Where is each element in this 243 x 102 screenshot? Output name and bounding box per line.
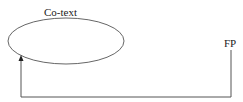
cotext-ellipse xyxy=(8,18,124,64)
fp-to-cotext-connector xyxy=(21,50,231,97)
diagram-canvas: Co-text FP xyxy=(0,0,243,102)
cotext-label: Co-text xyxy=(44,6,77,18)
fp-label: FP xyxy=(224,37,236,49)
